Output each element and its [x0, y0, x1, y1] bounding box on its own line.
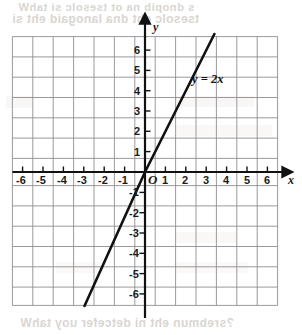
x-tick-label--3: -3	[77, 174, 87, 186]
x-tick-label-5: 5	[244, 174, 250, 186]
y-tick-label--5: -5	[129, 268, 139, 280]
y-tick-label--2: -2	[129, 207, 139, 219]
x-tick-label--5: -5	[36, 174, 46, 186]
y-tick-label-1: 1	[134, 146, 140, 158]
y-tick-label--1: -1	[129, 186, 139, 198]
x-tick-label-2: 2	[182, 174, 188, 186]
figure-root: s dnopib na ot tsesolc si tahW tsesolc e…	[0, 0, 302, 335]
origin-label: O	[148, 172, 157, 188]
x-tick-label-4: 4	[223, 174, 229, 186]
x-tick-label--1: -1	[118, 174, 128, 186]
y-tick-label--3: -3	[129, 227, 139, 239]
y-tick-label-4: 4	[134, 85, 140, 97]
coordinate-graph	[0, 0, 302, 335]
x-tick-label--4: -4	[57, 174, 67, 186]
y-tick-label--6: -6	[129, 288, 139, 300]
x-tick-label-1: 1	[162, 174, 168, 186]
x-tick-label--2: -2	[98, 174, 108, 186]
x-tick-label-3: 3	[203, 174, 209, 186]
x-tick-label-6: 6	[264, 174, 270, 186]
y-axis-label: y	[153, 20, 158, 35]
line-equation-label: y = 2x	[192, 72, 223, 87]
y-tick-label-5: 5	[134, 64, 140, 76]
y-tick-label--4: -4	[129, 247, 139, 259]
y-tick-label-3: 3	[134, 105, 140, 117]
y-tick-label-2: 2	[134, 125, 140, 137]
y-tick-label-6: 6	[134, 44, 140, 56]
x-axis-label: x	[288, 173, 294, 188]
x-tick-label--6: -6	[16, 174, 26, 186]
